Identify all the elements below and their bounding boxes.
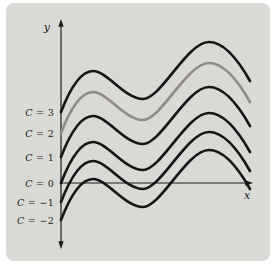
- curve-label-c-0: C = 0: [25, 178, 54, 189]
- curve-label-c--2: C = −2: [17, 215, 54, 226]
- curve-label-c-3: C = 3: [25, 107, 54, 118]
- y-axis-arrow-up-icon: [58, 19, 63, 27]
- curve-label-c-1: C = 1: [25, 152, 54, 163]
- y-axis-arrow-down-icon: [58, 241, 63, 249]
- curve-family-group: [61, 42, 250, 220]
- curve-label-c--1: C = −1: [17, 197, 54, 208]
- curve-label-group: C = 3C = 2C = 1C = 0C = −1C = −2: [17, 107, 54, 226]
- antiderivative-family-plot: y x C = 3C = 2C = 1C = 0C = −1C = −2: [0, 0, 276, 274]
- curve-c-0: [61, 113, 250, 183]
- curve-c-2-highlighted: [61, 63, 250, 133]
- curve-c-1: [61, 87, 250, 157]
- x-axis-label: x: [244, 189, 251, 202]
- curve-c-3: [61, 42, 250, 112]
- curve-label-c-2: C = 2: [25, 128, 54, 139]
- y-axis-label: y: [43, 21, 51, 34]
- figure-page: y x C = 3C = 2C = 1C = 0C = −1C = −2: [0, 0, 276, 274]
